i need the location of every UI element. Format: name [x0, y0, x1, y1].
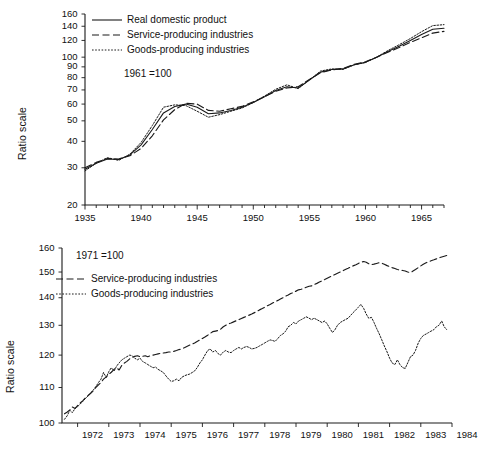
- legend-label: Service-producing industries: [127, 29, 253, 40]
- x-tick-label: 1979: [294, 429, 328, 440]
- y-tick-label: 20: [40, 199, 78, 210]
- x-tick-label: 1983: [419, 429, 453, 440]
- x-tick-label: 1945: [180, 212, 214, 223]
- y-tick-label: 100: [40, 51, 78, 62]
- y-tick-label: 120: [40, 34, 78, 45]
- legend-label: Goods-producing industries: [127, 44, 249, 55]
- base-year-note-bottom: 1971 =100: [76, 250, 124, 261]
- legend-line-dotted-icon: [56, 289, 86, 299]
- y-axis-title-top: Ratio scale: [16, 107, 28, 160]
- y-tick-label: 120: [17, 349, 55, 360]
- x-tick-label: 1981: [356, 429, 390, 440]
- legend-entry: Goods-producing industries: [92, 42, 253, 57]
- y-axis-title-bottom: Ratio scale: [4, 340, 16, 393]
- y-tick-label: 160: [40, 8, 78, 19]
- x-tick-label: 1935: [68, 212, 102, 223]
- y-tick-label: 60: [40, 98, 78, 109]
- y-tick-label: 110: [17, 381, 55, 392]
- x-tick-label: 1976: [200, 429, 234, 440]
- legend-line-solid-icon: [92, 15, 122, 25]
- legend-bottom: Service-producing industriesGoods-produc…: [56, 271, 217, 301]
- legend-entry: Service-producing industries: [92, 27, 253, 42]
- y-tick-label: 90: [40, 60, 78, 71]
- x-tick-label: 1960: [348, 212, 382, 223]
- y-tick-label: 80: [40, 71, 78, 82]
- x-tick-label: 1972: [76, 429, 110, 440]
- legend-label: Service-producing industries: [91, 273, 217, 284]
- x-tick-label: 1984: [450, 429, 482, 440]
- legend-top: Real domestic productService-producing i…: [92, 12, 253, 57]
- y-tick-label: 70: [40, 83, 78, 94]
- y-tick-label: 30: [40, 161, 78, 172]
- legend-entry: Goods-producing industries: [56, 286, 217, 301]
- base-year-note-top: 1961 =100: [124, 68, 172, 79]
- y-tick-label: 130: [17, 319, 55, 330]
- x-tick-label: 1982: [388, 429, 422, 440]
- x-tick-label: 1973: [107, 429, 141, 440]
- x-tick-label: 1980: [325, 429, 359, 440]
- y-tick-label: 140: [17, 291, 55, 302]
- x-tick-label: 1975: [169, 429, 203, 440]
- y-tick-label: 40: [40, 135, 78, 146]
- legend-entry: Service-producing industries: [56, 271, 217, 286]
- legend-entry: Real domestic product: [92, 12, 253, 27]
- chart-panel-bottom: Ratio scale 100110120130140150160 197219…: [0, 233, 456, 466]
- x-tick-label: 1974: [138, 429, 172, 440]
- y-tick-label: 50: [40, 114, 78, 125]
- x-tick-label: 1978: [263, 429, 297, 440]
- legend-line-dashed-icon: [56, 274, 86, 284]
- x-tick-label: 1950: [236, 212, 270, 223]
- x-tick-label: 1977: [232, 429, 266, 440]
- x-tick-label: 1965: [405, 212, 439, 223]
- legend-label: Real domestic product: [127, 14, 227, 25]
- series-line: [65, 304, 447, 419]
- x-tick-label: 1940: [124, 212, 158, 223]
- x-tick-label: 1955: [292, 212, 326, 223]
- y-tick-label: 160: [17, 242, 55, 253]
- legend-label: Goods-producing industries: [91, 288, 213, 299]
- y-tick-label: 100: [17, 417, 55, 428]
- legend-line-dotted-icon: [92, 45, 122, 55]
- y-tick-label: 150: [17, 266, 55, 277]
- legend-line-dashed-icon: [92, 30, 122, 40]
- chart-panel-top: Ratio scale 2030405060708090100120140160…: [0, 0, 456, 233]
- y-tick-label: 140: [40, 20, 78, 31]
